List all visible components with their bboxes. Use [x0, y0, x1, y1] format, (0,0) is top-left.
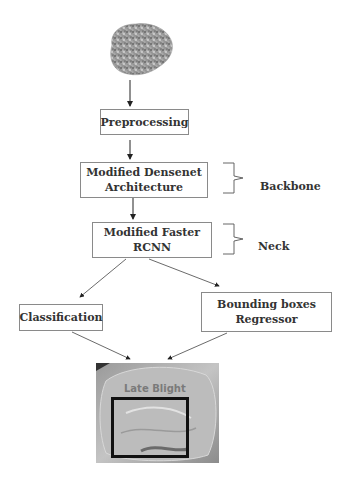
densenet-node: Modified Densenet Architecture: [80, 162, 208, 198]
output-detection-image: Late Blight: [96, 363, 219, 463]
detection-bounding-box: [111, 397, 189, 458]
bbox-regressor-node: Bounding boxes Regressor: [201, 292, 332, 332]
arrow-bbox-to-output: [168, 333, 227, 359]
backbone-label: Backbone: [260, 180, 321, 193]
arrow-rcnn-to-bbox: [149, 259, 219, 286]
preprocessing-node: Preprocessing: [100, 109, 189, 135]
neck-label: Neck: [258, 240, 289, 253]
late-blight-label: Late Blight: [124, 383, 186, 394]
faster-rcnn-node: Modified Faster RCNN: [92, 222, 212, 258]
arrow-rcnn-to-classification: [80, 259, 126, 297]
brace-backbone: [223, 163, 243, 193]
arrow-classification-to-output: [72, 332, 130, 359]
brace-neck: [223, 224, 243, 254]
classification-node: Classification: [19, 304, 103, 331]
input-leaf-icon: [111, 24, 173, 75]
flowchart-canvas: Preprocessing Modified Densenet Architec…: [0, 0, 347, 492]
